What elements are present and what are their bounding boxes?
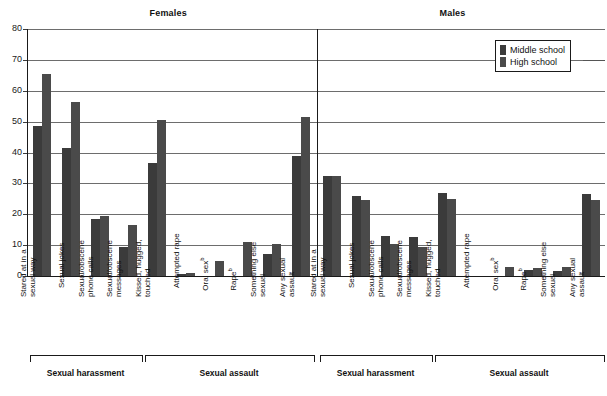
- category-label-line1: Stared at in a: [309, 249, 318, 297]
- category-label-line1: Any sexual: [568, 258, 577, 297]
- category-label-line1: Oral sexb: [198, 258, 210, 291]
- category-label-line1: Attempted rape: [462, 233, 471, 288]
- bar-females-4-high: [157, 120, 166, 276]
- category-label-females-8: Something elsesexual: [249, 242, 267, 297]
- y-axis-label-60: 60: [0, 85, 22, 95]
- category-label-line1: Rapeb: [516, 268, 528, 290]
- y-axis-label-50: 50: [0, 116, 22, 126]
- category-label-line1: Something else: [249, 242, 258, 297]
- category-label-females-0: Stared at in asexual way: [19, 249, 37, 297]
- bar-chart: 01020304050607080FemalesStared at in ase…: [0, 0, 607, 396]
- category-label-females-3: Sexual/obscenemessages: [105, 240, 123, 297]
- legend-leader-line: [583, 60, 605, 61]
- category-label-females-6: Oral sexb: [198, 258, 210, 291]
- y-axis-label-10: 10: [0, 239, 22, 249]
- group-label-females-0: Sexual harassment: [30, 368, 141, 378]
- group-label-males-1: Sexual assault: [435, 368, 603, 378]
- category-label-line1: Sexual/obscene: [367, 240, 376, 297]
- category-label-males-9: Any sexualassault: [568, 258, 586, 297]
- category-label-line2: messages: [114, 240, 123, 297]
- panel-title-males: Males: [440, 8, 466, 18]
- group-bracket-males-1: [435, 355, 605, 362]
- footnote-marker: b: [227, 268, 233, 271]
- y-axis-label-40: 40: [0, 147, 22, 157]
- legend-label-0: Middle school: [510, 45, 565, 55]
- bar-males-6-high: [505, 267, 514, 276]
- group-label-females-1: Sexual assault: [145, 368, 313, 378]
- category-label-line2: touched: [143, 240, 152, 297]
- legend-item-middle-school: Middle school: [500, 44, 565, 56]
- legend-swatch-1: [500, 57, 506, 67]
- bar-males-4-high: [447, 199, 456, 276]
- category-label-males-7: Rapeb: [516, 268, 528, 290]
- group-bracket-females-0: [30, 355, 143, 362]
- category-label-males-3: Sexual/obscenemessages: [395, 240, 413, 297]
- category-label-line2: assault: [287, 258, 296, 297]
- group-bracket-males-0: [320, 355, 433, 362]
- category-label-line1: Kissed, hugged,: [134, 240, 143, 297]
- category-label-males-1: Sexual jokes: [347, 243, 356, 288]
- category-label-line1: Sexual jokes: [57, 243, 66, 288]
- category-label-line1: Sexual/obscene: [77, 240, 86, 297]
- group-bracket-females-1: [145, 355, 315, 362]
- category-label-line2: sexual: [548, 242, 557, 297]
- bar-females-5-high: [186, 273, 195, 276]
- category-label-males-6: Oral sexb: [488, 258, 500, 291]
- category-label-line2: messages: [404, 240, 413, 297]
- y-axis-label-30: 30: [0, 177, 22, 187]
- footnote-marker: b: [517, 268, 523, 271]
- category-label-line2: sexual way: [28, 249, 37, 297]
- y-axis-line-females: [27, 29, 28, 277]
- y-axis-label-70: 70: [0, 54, 22, 64]
- chart-legend: Middle schoolHigh school: [495, 40, 571, 72]
- group-label-males-0: Sexual harassment: [320, 368, 431, 378]
- category-label-males-5: Attempted rape: [462, 233, 471, 288]
- category-label-males-8: Something elsesexual: [539, 242, 557, 297]
- y-axis-line-males: [317, 29, 318, 277]
- category-label-line1: Sexual/obscene: [105, 240, 114, 297]
- category-label-line1: Sexual jokes: [347, 243, 356, 288]
- category-label-line2: sexual way: [318, 249, 327, 297]
- panel-title-females: Females: [150, 8, 187, 18]
- y-axis-label-20: 20: [0, 208, 22, 218]
- legend-label-1: High school: [510, 57, 557, 67]
- category-label-line2: touched: [433, 240, 442, 297]
- category-label-line1: Any sexual: [278, 258, 287, 297]
- category-label-males-0: Stared at in asexual way: [309, 249, 327, 297]
- category-label-females-2: Sexual/obscenephone calls: [77, 240, 95, 297]
- bar-females-0-high: [42, 74, 51, 276]
- category-label-females-7: Rapeb: [226, 268, 238, 290]
- bar-males-0-high: [332, 176, 341, 276]
- category-label-line1: Kissed, hugged,: [424, 240, 433, 297]
- category-label-line2: sexual: [258, 242, 267, 297]
- legend-swatch-0: [500, 45, 506, 55]
- category-label-line1: Rapeb: [226, 268, 238, 290]
- category-label-line2: phone calls: [376, 240, 385, 297]
- category-label-females-1: Sexual jokes: [57, 243, 66, 288]
- y-axis-label-80: 80: [0, 23, 22, 33]
- bar-females-6-high: [215, 261, 224, 276]
- footnote-marker: b: [489, 258, 495, 261]
- category-label-males-4: Kissed, hugged,touched: [424, 240, 442, 297]
- category-label-females-5: Attempted rape: [172, 233, 181, 288]
- footnote-marker: b: [199, 258, 205, 261]
- category-label-line1: Stared at in a: [19, 249, 28, 297]
- category-label-line1: Something else: [539, 242, 548, 297]
- category-label-males-2: Sexual/obscenephone calls: [367, 240, 385, 297]
- category-label-line2: phone calls: [86, 240, 95, 297]
- category-label-line1: Attempted rape: [172, 233, 181, 288]
- category-label-line1: Oral sexb: [488, 258, 500, 291]
- legend-item-high-school: High school: [500, 56, 565, 68]
- category-label-females-4: Kissed, hugged,touched: [134, 240, 152, 297]
- category-label-line2: assault: [577, 258, 586, 297]
- category-label-females-9: Any sexualassault: [278, 258, 296, 297]
- category-label-line1: Sexual/obscene: [395, 240, 404, 297]
- bar-males-9-high: [591, 200, 600, 276]
